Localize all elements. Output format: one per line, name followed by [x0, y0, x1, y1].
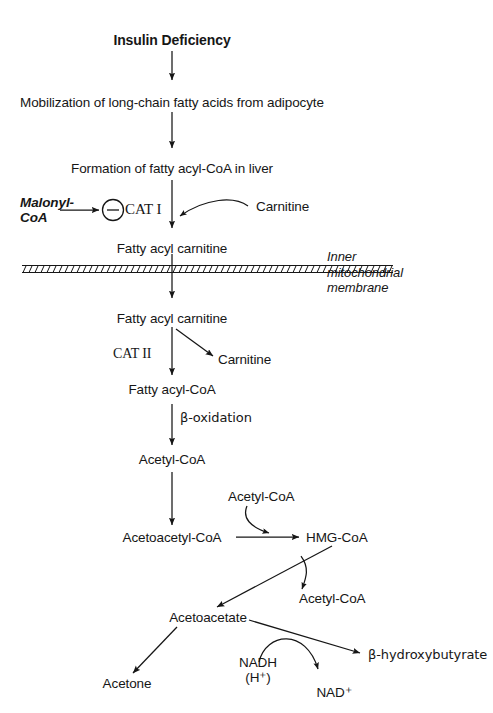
arrow-acetylcoa-release	[301, 556, 306, 589]
node-beta-oxidation-label: β-oxidation	[180, 411, 252, 426]
node-cat-ii: CAT II	[113, 346, 151, 362]
arrow-carnitine-in	[180, 200, 248, 216]
arrow-acetoacetate-to-acetone	[133, 627, 177, 673]
node-nadh: NADH (H⁺)	[239, 655, 277, 685]
node-inner-mitochondrial-membrane-label: Inner mitochondrial membrane	[327, 249, 403, 296]
nadh-proton-label: (H⁺)	[239, 670, 277, 685]
node-insulin-deficiency: Insulin Deficiency	[113, 33, 230, 49]
nadh-label: NADH	[239, 655, 277, 670]
membrane-label-line1: Inner	[327, 249, 403, 265]
node-beta-hydroxybutyrate: β-hydroxybutyrate	[368, 648, 487, 663]
node-fatty-acyl-coa: Fatty acyl-CoA	[128, 382, 215, 397]
node-cat-i: CAT I	[125, 201, 161, 218]
node-acetoacetate: Acetoacetate	[169, 610, 247, 625]
node-formation-fatty-acyl-coa: Formation of fatty acyl-CoA in liver	[71, 161, 273, 176]
node-mobilization: Mobilization of long-chain fatty acids f…	[20, 95, 324, 110]
node-fatty-acyl-carnitine-cytosolic: Fatty acyl carnitine	[117, 241, 228, 256]
node-nad-plus: NAD⁺	[316, 685, 351, 700]
figure-canvas: Insulin Deficiency Mobilization of long-…	[0, 0, 493, 713]
node-acetyl-coa-released: Acetyl-CoA	[299, 591, 366, 606]
membrane-label-line2: mitochondrial	[327, 265, 403, 281]
node-acetone: Acetone	[103, 676, 152, 691]
node-acetyl-coa-condensation: Acetyl-CoA	[228, 489, 295, 504]
node-fatty-acyl-carnitine-matrix: Fatty acyl carnitine	[117, 311, 228, 326]
node-acetoacetyl-coa: Acetoacetyl-CoA	[122, 530, 221, 545]
node-carnitine-in: Carnitine	[256, 199, 309, 214]
malonyl-coa-line1: Malonyl-	[20, 196, 74, 211]
arrow-acetylcoa-into-hmgcoa	[246, 506, 269, 533]
node-acetyl-coa-entry: Acetyl-CoA	[139, 452, 206, 467]
node-carnitine-out: Carnitine	[218, 352, 271, 367]
membrane-label-line3: membrane	[327, 280, 403, 296]
node-malonyl-coa: Malonyl- CoA	[20, 196, 74, 226]
arrow-carnitine-release	[176, 329, 213, 356]
page-bottom-artifact	[0, 705, 493, 713]
malonyl-coa-line2: CoA	[20, 211, 74, 226]
node-hmg-coa: HMG-CoA	[306, 530, 368, 545]
